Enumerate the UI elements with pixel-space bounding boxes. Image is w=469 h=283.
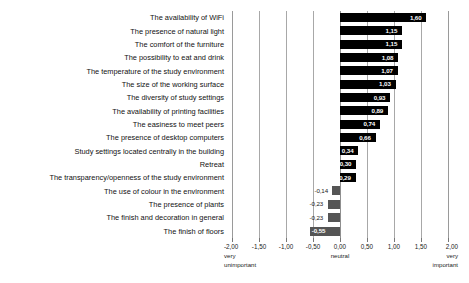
x-tick-label: 2,00 [433, 243, 458, 251]
category-axis-labels: The availability of WiFiThe presence of … [0, 11, 228, 238]
category-label: The transparency/openness of the study e… [49, 173, 224, 182]
x-tick-label: 1,00 [388, 243, 400, 251]
category-label-row: The finish of floors [0, 225, 228, 238]
bar-value-label: -0,23 [310, 199, 324, 209]
bar-row: 1,15 [232, 24, 448, 37]
x-tick-mark [367, 238, 368, 242]
x-tick-label: 0,00 [331, 243, 350, 251]
x-tick-label: -1,50 [252, 243, 266, 251]
category-label-row: The presence of plants [0, 198, 228, 211]
category-label: The presence of plants [149, 200, 224, 209]
x-axis: -2,00veryunimportant-1,50-1,00-0,500,00n… [232, 238, 448, 283]
category-label: The temperature of the study environment [86, 67, 224, 76]
category-label-row: The possibility to eat and drink [0, 51, 228, 64]
category-label: The availability of WiFi [150, 13, 224, 22]
bar-value-label: 0,30 [340, 159, 352, 169]
bar-value-label: 0,66 [359, 133, 371, 143]
x-tick-label: 0,50 [361, 243, 373, 251]
bar-row: 1,60 [232, 11, 448, 24]
bar-value-label: 0,29 [339, 173, 351, 183]
x-tick-mark [394, 238, 395, 242]
bar-value-label: 0,74 [363, 119, 375, 129]
x-tick-label: -0,50 [306, 243, 320, 251]
bar [328, 200, 340, 209]
x-tick-mark [232, 238, 233, 242]
category-label: The presence of natural light [130, 27, 224, 36]
x-tick-group: 0,50 [361, 243, 373, 251]
bar-value-label: 0,89 [372, 106, 384, 116]
bar-row: 0,93 [232, 91, 448, 104]
category-label-row: The easiness to meet peers [0, 118, 228, 131]
bar-row: -0,55 [232, 225, 448, 238]
bar-row: 0,34 [232, 144, 448, 157]
bar-row: -0,23 [232, 211, 448, 224]
category-label-row: The availability of WiFi [0, 11, 228, 24]
x-tick-mark [286, 238, 287, 242]
bar-row: 0,30 [232, 158, 448, 171]
x-tick-mark [313, 238, 314, 242]
category-label: The easiness to meet peers [133, 120, 224, 129]
x-axis-anchor-text: important [433, 261, 458, 269]
bar-value-label: 1,15 [386, 39, 398, 49]
x-tick-label: -1,00 [279, 243, 293, 251]
bar-row: 1,08 [232, 51, 448, 64]
x-tick-group: 1,50 [415, 243, 427, 251]
bar-series: 1,601,151,151,081,071,030,930,890,740,66… [232, 11, 448, 238]
bar-value-label: -0,14 [314, 186, 328, 196]
bar-value-label: -0,23 [310, 213, 324, 223]
plot-area: 1,601,151,151,081,071,030,930,890,740,66… [232, 11, 448, 238]
x-tick-mark [448, 238, 449, 242]
horizontal-bar-chart: The availability of WiFiThe presence of … [0, 0, 469, 283]
category-label: The possibility to eat and drink [124, 53, 224, 62]
category-label-row: The presence of desktop computers [0, 131, 228, 144]
x-tick-label: 1,50 [415, 243, 427, 251]
category-label: Retreat [200, 160, 224, 169]
bar-row: 1,15 [232, 38, 448, 51]
bar-value-label: 0,34 [342, 146, 354, 156]
bar [328, 213, 340, 222]
x-tick-mark [340, 238, 341, 242]
category-label: The diversity of study settings [127, 93, 224, 102]
category-label-row: The diversity of study settings [0, 91, 228, 104]
category-label: The finish of floors [164, 227, 224, 236]
category-label-row: The transparency/openness of the study e… [0, 171, 228, 184]
category-label-row: The use of colour in the environment [0, 184, 228, 197]
x-tick-group: -1,00 [279, 243, 293, 251]
bar-value-label: 1,03 [379, 79, 391, 89]
bar-row: 0,29 [232, 171, 448, 184]
bar-value-label: 1,08 [382, 53, 394, 63]
x-axis-anchor-text: neutral [331, 252, 350, 260]
category-label-row: The comfort of the furniture [0, 38, 228, 51]
category-label: Study settings located centrally in the … [74, 147, 224, 156]
category-label-row: Retreat [0, 158, 228, 171]
category-label: The comfort of the furniture [135, 40, 224, 49]
bar-row: 0,89 [232, 104, 448, 117]
bar-value-label: 1,07 [381, 66, 393, 76]
x-tick-group: 2,00veryimportant [433, 243, 458, 268]
x-axis-anchor-text: unimportant [224, 261, 256, 269]
bar-row: 1,03 [232, 78, 448, 91]
bar [332, 186, 340, 195]
bar-row: 0,66 [232, 131, 448, 144]
x-tick-group: -0,50 [306, 243, 320, 251]
category-label-row: The finish and decoration in general [0, 211, 228, 224]
bar-row: -0,23 [232, 198, 448, 211]
x-tick-mark [421, 238, 422, 242]
bar-value-label: -0,55 [312, 226, 326, 236]
category-label-row: The availability of printing facilities [0, 104, 228, 117]
x-axis-anchor-text: very [433, 252, 458, 260]
category-label: The availability of printing facilities [112, 107, 224, 116]
x-tick-group: 1,00 [388, 243, 400, 251]
bar-row: 1,07 [232, 64, 448, 77]
x-axis-anchor-text: very [224, 252, 256, 260]
category-label-row: The temperature of the study environment [0, 64, 228, 77]
category-label-row: The presence of natural light [0, 24, 228, 37]
x-tick-group: -1,50 [252, 243, 266, 251]
category-label: The presence of desktop computers [106, 133, 224, 142]
bar-value-label: 1,15 [386, 26, 398, 36]
category-label: The finish and decoration in general [106, 213, 224, 222]
bar-value-label: 1,60 [410, 13, 422, 23]
category-label: The use of colour in the environment [104, 187, 224, 196]
bar-value-label: 0,93 [374, 93, 386, 103]
category-label-row: The size of the working surface [0, 78, 228, 91]
